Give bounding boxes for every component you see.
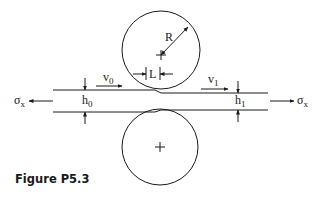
exit-thickness-label: h1 [235,93,246,109]
back-tension-label: σx [14,93,25,109]
entry-thickness-label: h0 [82,93,93,109]
exit-velocity-label: v1 [208,72,219,88]
radius-label: R [165,30,173,44]
front-tension-label: σx [297,93,308,109]
rolling-diagram: R L v0 v1 h0 h1 σx σx Figure P5.3 [0,0,325,197]
contact-length-label: L [149,67,156,81]
entry-velocity-label: v0 [103,70,114,86]
bottom-roll-center-cross-icon [155,142,165,152]
figure-caption: Figure P5.3 [15,172,90,186]
